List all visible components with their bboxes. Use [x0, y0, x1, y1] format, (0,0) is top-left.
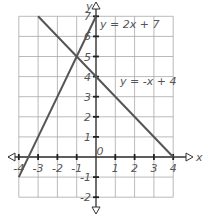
x-tick-label: 0	[97, 145, 104, 158]
equation-label-2: y = -x + 4	[119, 75, 176, 88]
x-tick-label: 2	[131, 162, 138, 175]
x-tick-label: -3	[33, 162, 44, 175]
y-tick-label: -2	[80, 191, 91, 204]
x-axis-label: x	[195, 151, 203, 164]
equation-label-1: y = 2x + 7	[99, 18, 159, 31]
y-tick-label: 5	[84, 51, 91, 64]
x-tick-label: -2	[52, 162, 63, 175]
y-tick-label: 2	[84, 111, 91, 124]
y-axis-down-arrow-icon	[92, 207, 100, 214]
coordinate-plane-chart: -4-3-2-101234-2-11234567xyy = 2x + 7y = …	[0, 0, 203, 223]
y-tick-label: -1	[80, 171, 91, 184]
x-tick-label: 3	[150, 162, 157, 175]
y-axis-up-arrow-icon	[92, 2, 100, 9]
x-axis-right-arrow-icon	[186, 153, 193, 161]
x-tick-label: 1	[112, 162, 119, 175]
x-axis-left-arrow-icon	[8, 153, 15, 161]
y-tick-label: 1	[84, 131, 91, 144]
x-tick-label: 4	[170, 162, 177, 175]
y-axis-label: y	[85, 0, 93, 13]
y-tick-label: 3	[84, 91, 91, 104]
y-tick-label: 4	[84, 71, 91, 84]
